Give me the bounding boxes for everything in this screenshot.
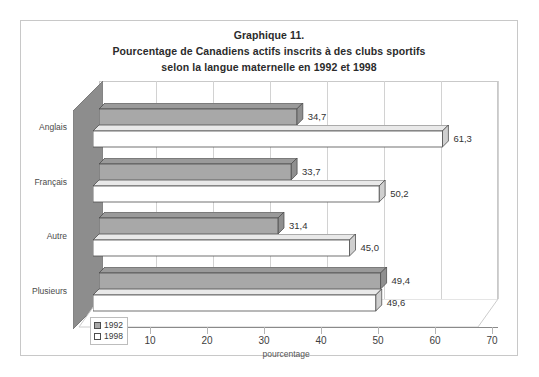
category-label-anglais: Anglais bbox=[15, 122, 67, 132]
value-label-1992-français: 33,7 bbox=[302, 166, 321, 177]
x-tick-20: 20 bbox=[192, 335, 222, 346]
tick-mark-30 bbox=[264, 327, 265, 334]
category-label-français: Français bbox=[15, 177, 67, 187]
bar-1992-anglais[interactable] bbox=[99, 103, 305, 127]
bar-1998-autre[interactable] bbox=[93, 234, 358, 258]
legend-swatch-1998 bbox=[94, 333, 101, 340]
chart-frame: Graphique 11. Pourcentage de Canadiens a… bbox=[20, 20, 518, 356]
bar-1998-français[interactable] bbox=[93, 180, 387, 204]
tick-mark-10 bbox=[150, 327, 151, 334]
value-label-1998-autre: 45,0 bbox=[361, 242, 380, 253]
chart-title-line-3: selon la langue maternelle en 1992 et 19… bbox=[21, 59, 517, 75]
gridline-70 bbox=[498, 81, 499, 299]
value-label-1998-français: 50,2 bbox=[390, 188, 409, 199]
category-label-autre: Autre bbox=[15, 231, 67, 241]
tick-mark-20 bbox=[207, 327, 208, 334]
x-tick-30: 30 bbox=[249, 335, 279, 346]
legend-label-1998: 1998 bbox=[104, 331, 123, 342]
chart-legend: 1992 1998 bbox=[90, 317, 128, 345]
bar-1992-français[interactable] bbox=[99, 158, 299, 182]
chart-title: Graphique 11. Pourcentage de Canadiens a… bbox=[21, 27, 517, 75]
bar-1992-autre[interactable] bbox=[99, 212, 286, 236]
category-label-plusieurs: Plusieurs bbox=[15, 286, 67, 296]
x-axis-line bbox=[93, 327, 498, 328]
bar-1992-plusieurs[interactable] bbox=[99, 267, 389, 291]
tick-mark-70 bbox=[492, 327, 493, 334]
legend-item-1998[interactable]: 1998 bbox=[94, 331, 123, 342]
chart-title-line-2: Pourcentage de Canadiens actifs inscrits… bbox=[21, 43, 517, 59]
x-tick-60: 60 bbox=[420, 335, 450, 346]
gridline-60 bbox=[441, 81, 442, 299]
value-label-1992-plusieurs: 49,4 bbox=[392, 275, 411, 286]
bar-1998-anglais[interactable] bbox=[93, 125, 450, 149]
value-label-1992-anglais: 34,7 bbox=[308, 111, 327, 122]
chart-title-line-1: Graphique 11. bbox=[21, 27, 517, 43]
x-tick-40: 40 bbox=[306, 335, 336, 346]
legend-label-1992: 1992 bbox=[104, 320, 123, 331]
bar-1998-plusieurs[interactable] bbox=[93, 289, 384, 313]
value-label-1992-autre: 31,4 bbox=[289, 220, 308, 231]
value-label-1998-plusieurs: 49,6 bbox=[387, 297, 406, 308]
x-tick-10: 10 bbox=[135, 335, 165, 346]
tick-mark-50 bbox=[378, 327, 379, 334]
tick-mark-60 bbox=[435, 327, 436, 334]
value-label-1998-anglais: 61,3 bbox=[453, 133, 472, 144]
plot-area: 34,761,333,750,231,445,049,449,6 Anglais… bbox=[73, 81, 503, 321]
legend-swatch-1992 bbox=[94, 322, 101, 329]
x-axis-title: pourcentage bbox=[263, 349, 310, 359]
x-tick-50: 50 bbox=[363, 335, 393, 346]
legend-item-1992[interactable]: 1992 bbox=[94, 320, 123, 331]
tick-mark-40 bbox=[321, 327, 322, 334]
x-tick-70: 70 bbox=[477, 335, 507, 346]
